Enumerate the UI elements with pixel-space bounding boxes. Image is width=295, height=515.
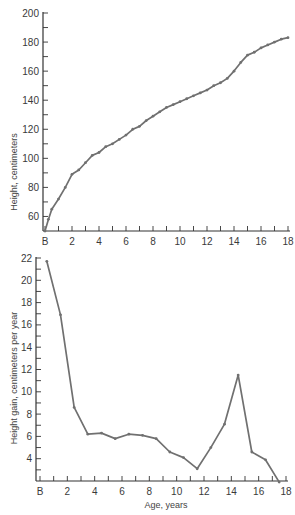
height-gain-data-point (127, 433, 130, 436)
height-gain-y-tick-label: 22 (21, 253, 33, 264)
height-y-tick-label: 200 (22, 8, 39, 19)
height-gain-y-tick-label: 12 (21, 364, 33, 375)
height-data-point (145, 119, 148, 122)
height-gain-data-point (223, 423, 226, 426)
height-x-tick-label: 8 (150, 236, 156, 247)
height-gain-data-point (182, 456, 185, 459)
height-y-tick-label: 120 (22, 124, 39, 135)
height-gain-data-point (196, 467, 199, 470)
height-x-tick-label: 10 (174, 236, 186, 247)
height-gain-x-tick-label: 8 (147, 486, 153, 497)
height-data-point (226, 77, 229, 80)
height-data-point (138, 125, 141, 128)
height-gain-chart: B2468101214161846810121416182022 Height … (9, 253, 292, 511)
height-gain-y-tick-label: 14 (21, 342, 33, 353)
height-gain-data-point (45, 260, 48, 263)
height-gain-data-point (155, 437, 158, 440)
height-data-point (111, 142, 114, 145)
height-gain-y-tick-label: 6 (26, 431, 32, 442)
height-gain-data-point (264, 458, 267, 461)
height-data-point (206, 89, 209, 92)
height-y-tick-label: 100 (22, 153, 39, 164)
height-x-tick-label: 18 (282, 236, 294, 247)
height-gain-x-tick-label: 10 (171, 486, 183, 497)
height-series (44, 36, 290, 232)
height-gain-data-point (209, 446, 212, 449)
height-data-point (50, 208, 53, 211)
height-data-point (273, 41, 276, 44)
height-data-point (280, 38, 283, 41)
height-data-point (260, 46, 263, 49)
height-gain-x-tick-label: 14 (226, 486, 238, 497)
height-gain-x-tick-label: 12 (198, 486, 210, 497)
height-gain-x-tick-label: 6 (119, 486, 125, 497)
height-data-point (192, 94, 195, 97)
height-gain-data-point (250, 451, 253, 454)
height-data-point (47, 218, 50, 221)
height-gain-data-point (237, 374, 240, 377)
height-data-point (64, 186, 67, 189)
height-data-point (84, 161, 87, 164)
height-data-point (91, 154, 94, 157)
height-data-point (219, 81, 222, 84)
height-data-point (172, 103, 175, 106)
height-gain-data-point (278, 481, 281, 484)
height-data-point (57, 198, 60, 201)
height-data-point (165, 106, 168, 109)
height-data-point (179, 100, 182, 103)
height-gain-x-tick-label: 16 (253, 486, 265, 497)
height-gain-data-point (100, 432, 103, 435)
height-data-point (71, 173, 74, 176)
height-gain-y-tick-label: 18 (21, 297, 33, 308)
height-x-tick-label: 2 (69, 236, 75, 247)
height-y-tick-label: 80 (28, 182, 40, 193)
height-gain-data-point (73, 406, 76, 409)
height-data-point (98, 151, 101, 154)
height-data-point (77, 169, 80, 172)
height-chart: B246810121416186080100120140160180200 He… (9, 8, 294, 248)
height-x-tick-label: 16 (255, 236, 267, 247)
height-data-point (266, 44, 269, 47)
height-data-point (118, 138, 121, 141)
height-data-point (158, 110, 161, 113)
height-gain-chart-axes: B2468101214161846810121416182022 (21, 253, 292, 498)
height-gain-x-tick-label: 18 (280, 486, 292, 497)
height-gain-data-point (168, 451, 171, 454)
height-gain-y-tick-label: 8 (26, 409, 32, 420)
height-x-tick-label: 12 (201, 236, 213, 247)
height-x-tick-label: 4 (96, 236, 102, 247)
height-gain-x-tick-label: B (37, 486, 44, 497)
height-gain-y-tick-label: 4 (26, 453, 32, 464)
height-y-tick-label: 140 (22, 95, 39, 106)
height-chart-axes: B246810121416186080100120140160180200 (22, 8, 294, 248)
height-data-point (212, 84, 215, 87)
age-x-axis-title: Age, years (144, 500, 188, 510)
height-gain-data-point (59, 313, 62, 316)
height-y-tick-label: 60 (28, 211, 40, 222)
height-gain-data-point (141, 434, 144, 437)
height-x-tick-label: 6 (123, 236, 129, 247)
growth-charts: B246810121416186080100120140160180200 He… (0, 0, 295, 515)
height-data-point (233, 70, 236, 73)
height-gain-y-tick-label: 10 (21, 386, 33, 397)
height-data-point (104, 145, 107, 148)
height-line (45, 38, 288, 231)
height-data-point (287, 36, 290, 39)
height-gain-y-tick-label: 20 (21, 275, 33, 286)
height-data-point (125, 134, 128, 137)
height-data-point (253, 51, 256, 54)
height-data-point (199, 92, 202, 95)
height-data-point (185, 97, 188, 100)
height-data-point (44, 230, 47, 233)
height-y-tick-label: 180 (22, 37, 39, 48)
height-data-point (152, 115, 155, 118)
height-gain-data-point (86, 433, 89, 436)
height-gain-series (45, 260, 280, 484)
height-data-point (246, 54, 249, 57)
height-gain-y-axis-title: Height gain, centimeters per year (9, 312, 19, 445)
height-x-tick-label: B (42, 236, 49, 247)
height-gain-x-tick-label: 4 (92, 486, 98, 497)
height-gain-x-tick-label: 2 (65, 486, 71, 497)
height-y-tick-label: 160 (22, 66, 39, 77)
height-data-point (131, 128, 134, 131)
